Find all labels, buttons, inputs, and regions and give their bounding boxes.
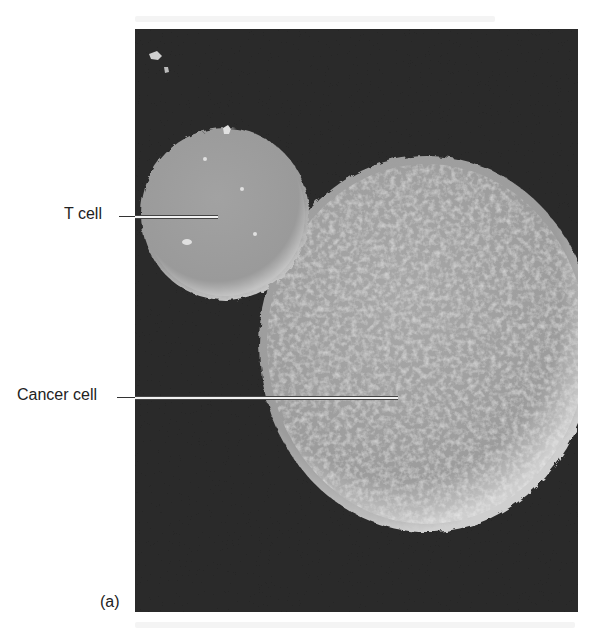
label-cancer-cell: Cancer cell <box>17 386 97 404</box>
panel-label: (a) <box>100 593 120 611</box>
micrograph-photo <box>135 29 578 612</box>
t-cell-leader-outside <box>119 216 135 217</box>
micrograph-svg <box>135 29 578 612</box>
label-t-cell: T cell <box>64 205 102 223</box>
t-cell-leader-line <box>135 215 218 219</box>
t-cell-body <box>145 132 305 296</box>
cancer-cell-leader-outside <box>117 397 135 398</box>
figure: T cell Cancer cell (a) <box>0 0 606 640</box>
cancer-cell-texture <box>267 164 578 524</box>
bleed-through-text-top <box>135 16 495 22</box>
cancer-cell-leader-line <box>135 396 398 400</box>
bleed-through-text-bottom <box>135 622 575 628</box>
